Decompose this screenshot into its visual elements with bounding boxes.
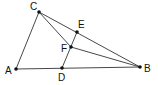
- point-b: [138, 65, 142, 69]
- point-f: [69, 45, 73, 49]
- label-b: B: [144, 63, 151, 74]
- geometry-figure: ABCDEF: [0, 0, 158, 85]
- segment-ac: [16, 12, 39, 69]
- point-c: [37, 10, 41, 14]
- label-c: C: [30, 1, 37, 12]
- point-e: [75, 30, 79, 34]
- label-e: E: [78, 19, 85, 30]
- segment-ab: [16, 67, 140, 69]
- segment-cf: [39, 12, 71, 47]
- segment-cb: [39, 12, 140, 67]
- point-d: [60, 66, 64, 70]
- label-d: D: [58, 72, 65, 83]
- point-a: [14, 67, 18, 71]
- triangle-diagram: ABCDEF: [0, 0, 158, 85]
- label-f: F: [61, 43, 67, 54]
- segment-fb: [71, 47, 140, 67]
- label-a: A: [5, 65, 12, 76]
